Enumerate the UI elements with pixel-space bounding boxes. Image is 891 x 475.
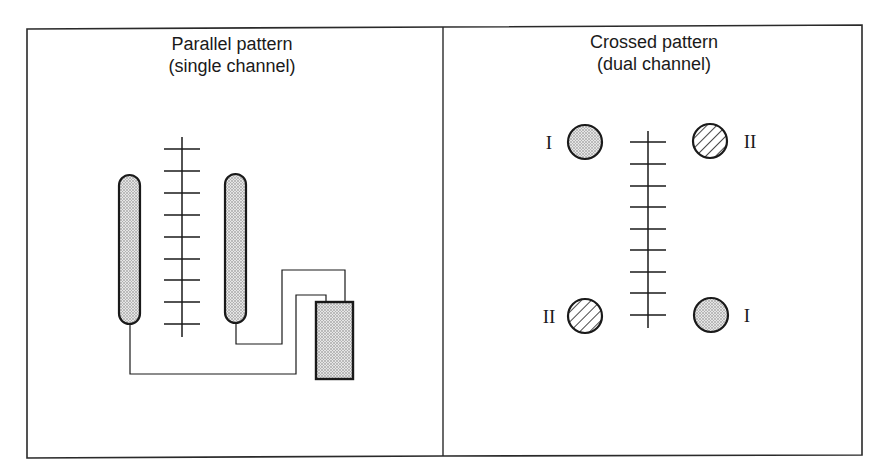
- panel-title-line1: Crossed pattern: [590, 32, 718, 52]
- channel-label: II: [744, 131, 757, 152]
- channel-label: I: [546, 132, 552, 153]
- left-electrode-icon: [119, 175, 140, 324]
- panel-title-line2: (single channel): [168, 56, 295, 76]
- channel-2-electrode-icon: [693, 124, 727, 158]
- panel-title-line1: Parallel pattern: [171, 34, 292, 54]
- channel-1-electrode-icon: [694, 298, 728, 332]
- electrode-placement-figure: Parallel pattern (single channel) Cross: [0, 0, 891, 475]
- incision-ladder-icon: [164, 137, 200, 337]
- panel-parallel-pattern: Parallel pattern (single channel): [119, 34, 353, 379]
- panel-crossed-pattern: Crossed pattern (dual channel) I II II I: [543, 32, 757, 333]
- channel-1-electrode-icon: [568, 125, 602, 159]
- right-electrode-icon: [225, 174, 246, 323]
- panel-title-line2: (dual channel): [597, 54, 711, 74]
- channel-label: II: [543, 306, 556, 327]
- diagram-canvas: Parallel pattern (single channel) Cross: [0, 0, 891, 475]
- stimulator-unit-icon: [316, 302, 353, 379]
- figure-frame: [27, 25, 862, 458]
- channel-2-electrode-icon: [568, 299, 602, 333]
- channel-label: I: [744, 305, 750, 326]
- incision-ladder-icon: [630, 131, 666, 328]
